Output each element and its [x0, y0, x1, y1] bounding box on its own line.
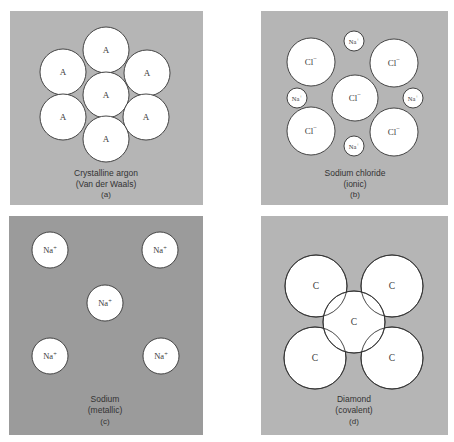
- caption-letter: (b): [350, 190, 360, 199]
- atom-label: A: [103, 134, 110, 144]
- caption-bond-type: (metallic): [88, 405, 123, 415]
- argon-diagram: AAAAAAA Crystalline argon (Van der Waals…: [10, 11, 203, 205]
- caption-title: Crystalline argon: [74, 168, 138, 178]
- charge-superscript: +: [356, 37, 359, 42]
- panel-sodium-chloride: Cl−Cl−Cl−Cl−Cl−Na+Na+Na+Na+ Sodium chlor…: [261, 11, 448, 205]
- atom-label: C: [351, 317, 357, 327]
- atom-label: A: [144, 68, 151, 78]
- panel-crystalline-argon: AAAAAAA Crystalline argon (Van der Waals…: [10, 11, 203, 205]
- caption-title: Diamond: [337, 394, 371, 404]
- charge-superscript: −: [396, 125, 400, 132]
- caption-title: Sodium: [91, 394, 120, 404]
- caption-letter: (d): [349, 417, 359, 426]
- atom-label: A: [103, 90, 110, 100]
- charge-superscript: −: [313, 124, 317, 131]
- caption-letter: (a): [101, 190, 111, 199]
- charge-superscript: −: [396, 56, 400, 63]
- caption-bond-type: (covalent): [335, 405, 372, 415]
- charge-superscript: +: [108, 297, 112, 304]
- caption-title: Sodium chloride: [325, 168, 386, 178]
- atom-label: A: [103, 45, 110, 55]
- atom-label: C: [313, 281, 319, 291]
- caption-bond-type: (ionic): [343, 179, 366, 189]
- sodium-chloride-diagram: Cl−Cl−Cl−Cl−Cl−Na+Na+Na+Na+ Sodium chlor…: [261, 11, 448, 205]
- charge-superscript: +: [53, 244, 57, 251]
- panel-diamond-covalent: CCCCC Diamond (covalent) (d): [261, 216, 448, 435]
- charge-superscript: +: [164, 350, 168, 357]
- atom-label: C: [312, 353, 318, 363]
- atom-label: A: [60, 67, 67, 77]
- atom-label: A: [143, 112, 150, 122]
- charge-superscript: +: [415, 94, 418, 99]
- charge-superscript: −: [313, 55, 317, 62]
- charge-superscript: +: [163, 244, 167, 251]
- panel-sodium-metallic: Na+Na+Na+Na+Na+ Sodium (metallic) (c): [9, 216, 203, 435]
- charge-superscript: +: [53, 350, 57, 357]
- atom-label: C: [389, 353, 395, 363]
- charge-superscript: +: [299, 94, 302, 99]
- diamond-diagram: CCCCC Diamond (covalent) (d): [261, 216, 448, 435]
- caption-letter: (c): [100, 417, 110, 426]
- charge-superscript: −: [357, 91, 361, 98]
- charge-superscript: +: [356, 142, 359, 147]
- atom-label: A: [60, 112, 67, 122]
- sodium-metallic-diagram: Na+Na+Na+Na+Na+ Sodium (metallic) (c): [9, 216, 203, 435]
- caption-bond-type: (Van der Waals): [76, 179, 137, 189]
- atom-label: C: [389, 281, 395, 291]
